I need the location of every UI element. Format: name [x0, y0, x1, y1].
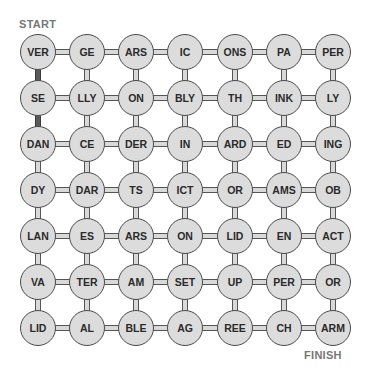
- maze-node[interactable]: EN: [266, 218, 302, 254]
- maze-node[interactable]: LAN: [20, 218, 56, 254]
- maze-node[interactable]: BLE: [118, 310, 154, 346]
- maze-node[interactable]: CH: [266, 310, 302, 346]
- maze-node[interactable]: DY: [20, 172, 56, 208]
- maze-node[interactable]: VA: [20, 264, 56, 300]
- maze-node[interactable]: ED: [266, 126, 302, 162]
- word-maze-board: VERGEARSICONSPAPERSELLYONBLYTHINKLYDANCE…: [0, 0, 368, 373]
- maze-node[interactable]: INK: [266, 80, 302, 116]
- maze-node[interactable]: AG: [167, 310, 203, 346]
- maze-node[interactable]: TH: [217, 80, 253, 116]
- maze-node[interactable]: OB: [315, 172, 351, 208]
- maze-node[interactable]: LY: [315, 80, 351, 116]
- maze-node[interactable]: UP: [217, 264, 253, 300]
- maze-node[interactable]: ARS: [118, 34, 154, 70]
- maze-node[interactable]: VER: [20, 34, 56, 70]
- maze-node[interactable]: OR: [315, 264, 351, 300]
- maze-node[interactable]: IN: [167, 126, 203, 162]
- maze-node[interactable]: DER: [118, 126, 154, 162]
- maze-node[interactable]: GE: [69, 34, 105, 70]
- maze-node[interactable]: LID: [20, 310, 56, 346]
- maze-node[interactable]: PER: [266, 264, 302, 300]
- maze-node[interactable]: ICT: [167, 172, 203, 208]
- maze-node[interactable]: CE: [69, 126, 105, 162]
- maze-node[interactable]: AMS: [266, 172, 302, 208]
- finish-label: FINISH: [304, 349, 342, 361]
- maze-node[interactable]: ONS: [217, 34, 253, 70]
- maze-node[interactable]: LLY: [69, 80, 105, 116]
- maze-node[interactable]: TS: [118, 172, 154, 208]
- maze-node[interactable]: DAR: [69, 172, 105, 208]
- maze-node[interactable]: IC: [167, 34, 203, 70]
- maze-node[interactable]: DAN: [20, 126, 56, 162]
- maze-node[interactable]: AL: [69, 310, 105, 346]
- maze-node[interactable]: LID: [217, 218, 253, 254]
- maze-node[interactable]: PA: [266, 34, 302, 70]
- maze-node[interactable]: ON: [118, 80, 154, 116]
- maze-node[interactable]: BLY: [167, 80, 203, 116]
- maze-node[interactable]: SET: [167, 264, 203, 300]
- maze-node[interactable]: ARD: [217, 126, 253, 162]
- maze-node[interactable]: ACT: [315, 218, 351, 254]
- maze-node[interactable]: ON: [167, 218, 203, 254]
- maze-node[interactable]: SE: [20, 80, 56, 116]
- maze-node[interactable]: ES: [69, 218, 105, 254]
- maze-node[interactable]: ARM: [315, 310, 351, 346]
- maze-node[interactable]: TER: [69, 264, 105, 300]
- maze-node[interactable]: OR: [217, 172, 253, 208]
- maze-node[interactable]: AM: [118, 264, 154, 300]
- maze-node[interactable]: ARS: [118, 218, 154, 254]
- maze-node[interactable]: REE: [217, 310, 253, 346]
- maze-node[interactable]: PER: [315, 34, 351, 70]
- maze-node[interactable]: ING: [315, 126, 351, 162]
